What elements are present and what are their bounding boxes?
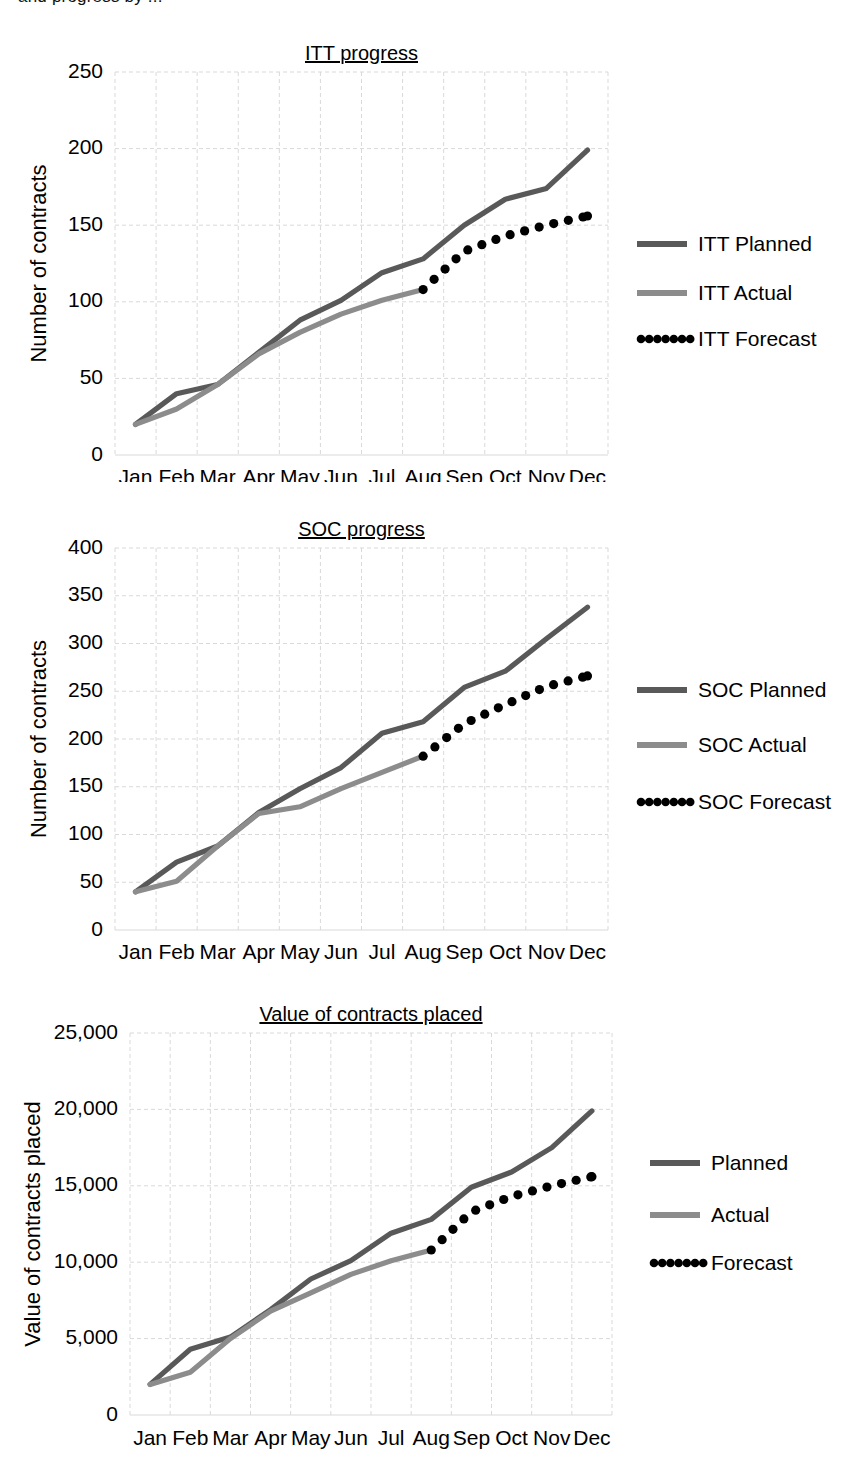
y-tick-label: 400 bbox=[68, 535, 103, 558]
legend-swatch-dotted bbox=[661, 335, 670, 344]
chart-svg-soc-progress: 050100150200250300350400Number of contra… bbox=[0, 500, 857, 970]
x-tick-label: Dec bbox=[569, 940, 606, 963]
forecast-dot bbox=[454, 724, 463, 733]
series-dots-forecast bbox=[427, 1172, 597, 1255]
x-tick-label: Nov bbox=[528, 465, 566, 482]
chart-title: Value of contracts placed bbox=[259, 1003, 482, 1025]
y-tick-label: 20,000 bbox=[54, 1096, 118, 1119]
chart-title: ITT progress bbox=[305, 42, 418, 64]
legend-label: SOC Planned bbox=[698, 678, 826, 701]
y-axis-title: Value of contracts placed bbox=[20, 1101, 45, 1346]
forecast-dot bbox=[557, 1179, 566, 1188]
forecast-dot bbox=[521, 691, 530, 700]
forecast-dot bbox=[429, 275, 438, 284]
y-axis-title: Number of contracts bbox=[26, 640, 51, 838]
forecast-dot bbox=[448, 1225, 457, 1234]
y-tick-label: 100 bbox=[68, 821, 103, 844]
x-tick-label: Jun bbox=[324, 940, 358, 963]
legend-swatch-dotted bbox=[691, 1259, 700, 1268]
gridlines bbox=[115, 72, 608, 455]
y-tick-label: 200 bbox=[68, 135, 103, 158]
legend-item[interactable]: SOC Actual bbox=[637, 733, 807, 756]
legend-swatch-dotted bbox=[670, 798, 679, 807]
forecast-dot bbox=[485, 1200, 494, 1209]
x-axis-ticks: JanFebMarAprMayJunJulAugSepOctNovDec bbox=[119, 465, 607, 482]
forecast-dot bbox=[451, 254, 460, 263]
x-tick-label: Jul bbox=[378, 1426, 405, 1449]
clipped-header-text: and progress by ... bbox=[18, 0, 163, 7]
forecast-dot bbox=[440, 264, 449, 273]
legend-swatch-dotted bbox=[645, 798, 654, 807]
x-tick-label: Mar bbox=[200, 940, 236, 963]
series-dots-itt-forecast bbox=[419, 211, 593, 294]
legend-swatch-dotted bbox=[645, 335, 654, 344]
legend: ITT PlannedITT ActualITT Forecast bbox=[637, 232, 817, 350]
chart-itt-progress: 050100150200250Number of contractsITT pr… bbox=[0, 12, 857, 482]
x-tick-label: Feb bbox=[172, 1426, 208, 1449]
y-tick-label: 100 bbox=[68, 288, 103, 311]
legend-item[interactable]: Forecast bbox=[650, 1251, 793, 1274]
y-tick-label: 150 bbox=[68, 773, 103, 796]
legend-item[interactable]: ITT Actual bbox=[637, 281, 792, 304]
x-tick-label: Feb bbox=[159, 465, 195, 482]
y-tick-label: 15,000 bbox=[54, 1172, 118, 1195]
y-tick-label: 50 bbox=[80, 365, 103, 388]
forecast-dot bbox=[513, 1190, 522, 1199]
forecast-dot bbox=[564, 216, 573, 225]
legend-swatch-dotted bbox=[686, 798, 695, 807]
x-tick-label: Jun bbox=[324, 465, 358, 482]
y-tick-label: 0 bbox=[91, 442, 103, 465]
legend-swatch-dotted bbox=[678, 335, 687, 344]
y-tick-label: 250 bbox=[68, 59, 103, 82]
x-tick-label: Jan bbox=[119, 465, 153, 482]
legend-label: ITT Planned bbox=[698, 232, 812, 255]
x-tick-label: Sep bbox=[453, 1426, 490, 1449]
legend-swatch-dotted bbox=[658, 1259, 667, 1268]
y-axis-ticks: 050100150200250 bbox=[68, 59, 103, 465]
legend-label: Actual bbox=[711, 1203, 769, 1226]
forecast-dot bbox=[549, 680, 558, 689]
y-tick-label: 350 bbox=[68, 582, 103, 605]
y-tick-label: 0 bbox=[91, 917, 103, 940]
series-group bbox=[136, 607, 593, 892]
series-group bbox=[150, 1111, 596, 1385]
legend: SOC PlannedSOC ActualSOC Forecast bbox=[637, 678, 831, 813]
legend-item[interactable]: ITT Forecast bbox=[637, 327, 817, 350]
y-tick-label: 300 bbox=[68, 630, 103, 653]
legend-item[interactable]: ITT Planned bbox=[637, 232, 812, 255]
x-tick-label: Dec bbox=[569, 465, 606, 482]
legend-item[interactable]: Actual bbox=[650, 1203, 769, 1226]
forecast-dot bbox=[507, 697, 516, 706]
legend-label: Forecast bbox=[711, 1251, 793, 1274]
forecast-dot bbox=[572, 1176, 581, 1185]
forecast-dot bbox=[471, 1206, 480, 1215]
forecast-dot bbox=[542, 1182, 551, 1191]
y-axis-ticks: 050100150200250300350400 bbox=[68, 535, 103, 940]
legend-swatch-dotted bbox=[670, 335, 679, 344]
y-tick-label: 5,000 bbox=[65, 1325, 118, 1348]
legend-item[interactable]: Planned bbox=[650, 1151, 788, 1174]
x-tick-label: Oct bbox=[489, 940, 522, 963]
x-tick-label: May bbox=[280, 940, 320, 963]
chart-title: SOC progress bbox=[298, 518, 425, 540]
legend-swatch-dotted bbox=[678, 798, 687, 807]
x-tick-label: Jun bbox=[334, 1426, 368, 1449]
clipped-header-strip: and progress by ... bbox=[0, 0, 857, 10]
chart-svg-itt-progress: 050100150200250Number of contractsITT pr… bbox=[0, 12, 857, 482]
forecast-dot bbox=[535, 222, 544, 231]
legend-swatch-dotted bbox=[637, 335, 646, 344]
chart-value-of-contracts-placed: 05,00010,00015,00020,00025,000Value of c… bbox=[0, 975, 857, 1455]
legend-swatch-dotted bbox=[650, 1259, 659, 1268]
forecast-dot bbox=[419, 285, 428, 294]
legend-swatch-dotted bbox=[653, 798, 662, 807]
legend-item[interactable]: SOC Forecast bbox=[637, 790, 831, 813]
x-tick-label: Jan bbox=[119, 940, 153, 963]
x-tick-label: Oct bbox=[489, 465, 522, 482]
x-tick-label: Oct bbox=[495, 1426, 528, 1449]
legend-item[interactable]: SOC Planned bbox=[637, 678, 826, 701]
legend-swatch-dotted bbox=[666, 1259, 675, 1268]
series-dots-soc-forecast bbox=[419, 671, 593, 760]
legend-swatch-dotted bbox=[686, 335, 695, 344]
legend-label: ITT Actual bbox=[698, 281, 792, 304]
legend-label: Planned bbox=[711, 1151, 788, 1174]
